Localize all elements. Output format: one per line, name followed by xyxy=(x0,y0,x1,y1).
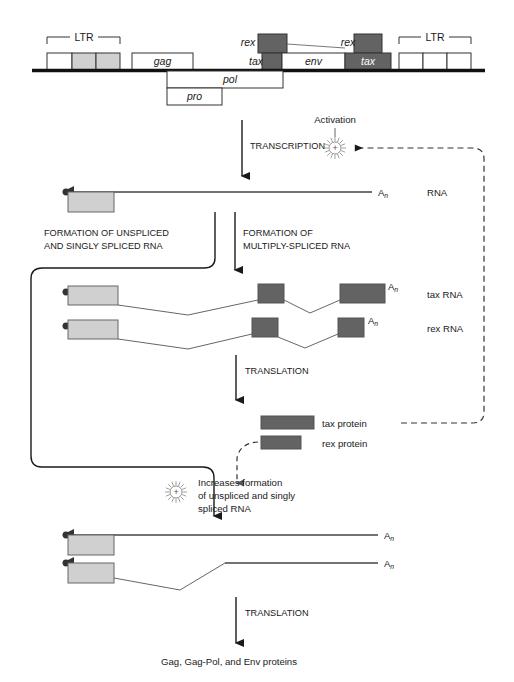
right-ltr-boxes xyxy=(399,53,471,70)
left-ltr-label: LTR xyxy=(74,31,93,43)
tax-protein-row: tax protein xyxy=(261,416,367,429)
right-ltr-bracket: LTR xyxy=(399,31,471,44)
gene-box-rex-left: rex xyxy=(241,34,345,53)
gene-label-env: env xyxy=(305,55,323,67)
gene-label-rex-left: rex xyxy=(241,36,256,48)
rex-feedback-loop: + Increases formation of unspliced and s… xyxy=(165,442,295,514)
singly-spliced-gag-region xyxy=(68,563,114,583)
primary-rna-tail-label: An xyxy=(378,187,388,199)
transcription-step: TRANSCRIPTION + Activation xyxy=(242,114,356,176)
singly-spliced-intron xyxy=(114,563,225,590)
rex-rna-intron-2 xyxy=(278,334,338,348)
rex-rna-exon-1 xyxy=(68,320,118,339)
activation-label: Activation xyxy=(314,114,356,125)
final-products-label: Gag, Gag-Pol, and Env proteins xyxy=(161,656,297,667)
activation-burst-icon: + xyxy=(324,137,346,159)
htlv-expression-diagram: LTR gag rex tax env xyxy=(0,0,514,682)
diagram-root: LTR gag rex tax env xyxy=(0,0,514,682)
unspliced-rna-gag-region xyxy=(68,535,114,555)
tax-rna: An tax RNA xyxy=(62,281,463,315)
gene-box-tax-right: tax xyxy=(345,53,391,70)
tax-rna-intron-2 xyxy=(284,300,340,313)
unspliced-branch: FORMATION OF UNSPLICED AND SINGLY SPLICE… xyxy=(31,212,215,516)
unspliced-rna-tail-label: An xyxy=(384,530,394,542)
tax-protein-box xyxy=(261,416,314,429)
formation-unspliced-line2: AND SINGLY SPLICED RNA xyxy=(44,241,163,251)
rex-rna-label: rex RNA xyxy=(427,323,464,334)
primary-rna-gag-region xyxy=(68,192,114,212)
rex-burst-icon: + xyxy=(165,481,187,503)
gene-box-gag: gag xyxy=(132,53,193,70)
rex-rna-intron-1 xyxy=(118,334,252,349)
translation-lower-label: TRANSLATION xyxy=(245,608,309,618)
multiply-spliced-branch: FORMATION OF MULTIPLY-SPLICED RNA xyxy=(235,212,351,270)
rex-rna-exon-2 xyxy=(252,318,278,337)
gene-box-tax-left: tax xyxy=(249,53,282,70)
formation-multiply-line2: MULTIPLY-SPLICED RNA xyxy=(243,241,351,251)
rex-rna-tail-label: An xyxy=(368,315,378,327)
gene-label-pol: pol xyxy=(222,73,238,85)
primary-rna-label: RNA xyxy=(427,187,448,198)
gene-box-pro: pro xyxy=(167,88,222,105)
gene-box-env: env xyxy=(282,53,345,70)
left-ltr-bracket: LTR xyxy=(47,31,120,44)
translation-upper-step: TRANSLATION xyxy=(236,355,309,400)
rex-protein-label: rex protein xyxy=(322,438,367,449)
transcription-label: TRANSCRIPTION xyxy=(250,141,325,151)
formation-unspliced-line1: FORMATION OF UNSPLICED xyxy=(44,228,169,238)
rex-burst-plus-glyph: + xyxy=(173,487,178,497)
tax-rna-intron-1 xyxy=(118,300,258,315)
rex-rna: An rex RNA xyxy=(62,315,464,349)
formation-multiply-line1: FORMATION OF xyxy=(243,228,313,238)
tax-rna-exon-2 xyxy=(258,284,284,303)
tax-protein-label: tax protein xyxy=(322,418,367,429)
gene-box-rex-right: rex xyxy=(341,34,382,53)
increases-line3: spliced RNA xyxy=(198,503,251,514)
unspliced-rna: An xyxy=(62,529,394,555)
rex-protein-row: rex protein xyxy=(261,436,367,449)
right-ltr-label: LTR xyxy=(425,31,444,43)
burst-plus-glyph: + xyxy=(332,143,337,153)
gene-label-tax-left: tax xyxy=(249,55,264,67)
increases-line2: of unspliced and singly xyxy=(198,490,295,501)
rex-protein-box xyxy=(261,436,301,449)
increases-line1: Increases formation xyxy=(198,477,282,488)
singly-spliced-rna: An xyxy=(62,557,394,590)
tax-rna-exon-3 xyxy=(340,284,385,303)
rex-rna-exon-3 xyxy=(338,318,364,337)
tax-rna-label: tax RNA xyxy=(427,289,463,300)
gene-label-gag: gag xyxy=(154,55,172,67)
primary-rna: An RNA xyxy=(62,186,448,212)
gene-label-rex-right: rex xyxy=(341,36,356,48)
translation-upper-label: TRANSLATION xyxy=(245,366,309,376)
singly-spliced-tail-label: An xyxy=(384,558,394,570)
translation-lower-step: TRANSLATION xyxy=(236,597,309,643)
gene-box-pol: pol xyxy=(167,71,283,88)
tax-rna-exon-1 xyxy=(68,286,118,305)
gene-label-pro: pro xyxy=(186,90,202,102)
genome-map: LTR gag rex tax env xyxy=(32,31,485,105)
tax-rna-tail-label: An xyxy=(388,281,398,293)
gene-label-tax-right: tax xyxy=(361,55,376,67)
unspliced-path xyxy=(31,212,215,516)
left-ltr-boxes xyxy=(47,53,120,70)
